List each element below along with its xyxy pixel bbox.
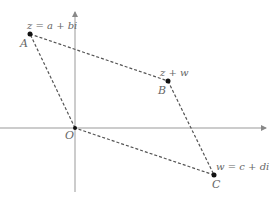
label-z-expr: z = a + bi bbox=[27, 21, 77, 31]
label-C: C bbox=[212, 179, 220, 190]
complex-plane-diagram: z = a + bi A z + w B O w = c + di C bbox=[0, 0, 279, 200]
point-B bbox=[166, 79, 171, 84]
label-B: B bbox=[158, 85, 166, 96]
edge-O-A bbox=[30, 34, 75, 128]
parallelogram bbox=[30, 34, 214, 175]
edge-A-B bbox=[30, 34, 168, 81]
point-A bbox=[28, 32, 33, 37]
point-C bbox=[212, 173, 217, 178]
label-sum-expr: z + w bbox=[160, 68, 189, 78]
label-A: A bbox=[20, 38, 28, 49]
label-O: O bbox=[65, 130, 74, 141]
edge-C-O bbox=[75, 128, 214, 175]
label-w-expr: w = c + di bbox=[216, 162, 269, 172]
